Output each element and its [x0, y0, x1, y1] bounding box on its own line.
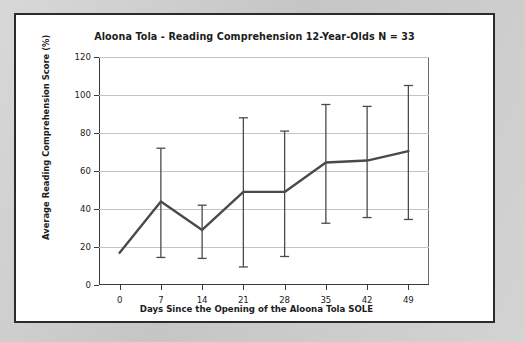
x-tick-mark	[120, 285, 121, 290]
series-line	[120, 151, 409, 253]
y-tick-label: 60	[80, 166, 91, 176]
x-tick-mark	[202, 285, 203, 290]
x-tick-label: 49	[403, 295, 414, 305]
y-tick-label: 80	[80, 128, 91, 138]
y-tick-mark	[94, 285, 99, 286]
x-tick-mark	[408, 285, 409, 290]
plot-area: 020406080100120 07142128354249	[99, 57, 429, 285]
plot-wrapper: Average Reading Comprehension Score (%) …	[16, 15, 497, 325]
x-tick-mark	[326, 285, 327, 290]
x-tick-label: 0	[117, 295, 122, 305]
x-tick-label: 14	[197, 295, 208, 305]
y-tick-label: 120	[75, 52, 91, 62]
y-tick-label: 20	[80, 242, 91, 252]
y-tick-label: 40	[80, 204, 91, 214]
x-tick-mark	[243, 285, 244, 290]
y-axis-title: Average Reading Comprehension Score (%)	[41, 40, 51, 240]
y-tick-label: 100	[75, 90, 91, 100]
x-tick-label: 35	[320, 295, 331, 305]
x-tick-label: 7	[158, 295, 163, 305]
x-tick-label: 21	[238, 295, 249, 305]
x-tick-mark	[161, 285, 162, 290]
x-tick-label: 28	[279, 295, 290, 305]
data-series-layer	[99, 57, 429, 285]
y-tick-label: 0	[86, 280, 91, 290]
x-axis-title: Days Since the Opening of the Aloona Tol…	[16, 304, 497, 314]
figure-panel: Aloona Tola - Reading Comprehension 12-Y…	[14, 13, 495, 323]
x-tick-mark	[367, 285, 368, 290]
x-tick-label: 42	[362, 295, 373, 305]
x-tick-mark	[285, 285, 286, 290]
